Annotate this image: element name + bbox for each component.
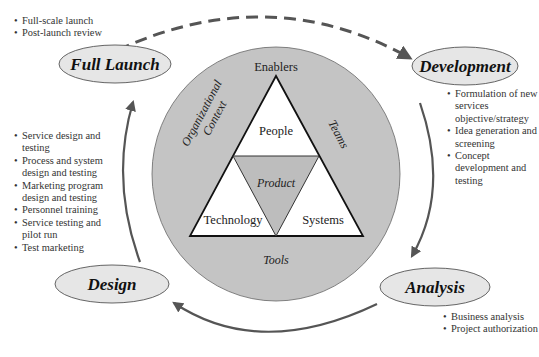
bullet-item: Process and system design and testing — [14, 155, 112, 180]
stage-label-full-launch: Full Launch — [69, 55, 159, 74]
stage-label-analysis: Analysis — [404, 278, 465, 297]
bullet-item: Idea generation and screening — [447, 125, 539, 150]
bullet-item: Formulation of new services objective/st… — [447, 88, 539, 125]
analysis-bullets: Business analysis Project authorization — [443, 311, 539, 336]
bullet-item: Service testing and pilot run — [14, 217, 112, 242]
bullet-item: Personnel training — [14, 204, 112, 216]
bullet-item: Concept development and testing — [447, 150, 539, 187]
design-bullets: Service design and testing Process and s… — [14, 130, 112, 254]
development-bullets: Formulation of new services objective/st… — [447, 88, 539, 187]
stage-design: Design — [55, 265, 169, 303]
arrow-analysis-to-design — [174, 303, 377, 332]
stage-label-design: Design — [86, 275, 136, 294]
bullet-item: Business analysis — [443, 311, 539, 323]
tools-label: Tools — [263, 253, 289, 267]
systems-label: Systems — [302, 213, 344, 227]
bullet-item: Service design and testing — [14, 130, 112, 155]
arrow-design-to-fulllaunch — [123, 102, 140, 262]
bullet-item: Post-launch review — [14, 27, 144, 39]
bullet-item: Full-scale launch — [14, 15, 144, 27]
stage-analysis: Analysis — [380, 268, 490, 306]
bullet-item: Test marketing — [14, 242, 112, 254]
people-label: People — [259, 124, 293, 138]
enablers-label: Enablers — [254, 60, 298, 74]
product-label: Product — [256, 176, 296, 190]
stage-full-launch: Full Launch — [59, 45, 171, 83]
arrow-development-to-analysis — [412, 103, 433, 256]
bullet-item: Project authorization — [443, 323, 539, 335]
stage-label-development: Development — [418, 57, 512, 76]
technology-label: Technology — [204, 213, 264, 227]
stage-development: Development — [412, 47, 518, 85]
bullet-item: Marketing program design and testing — [14, 180, 112, 205]
full-launch-bullets: Full-scale launch Post-launch review — [14, 15, 144, 40]
